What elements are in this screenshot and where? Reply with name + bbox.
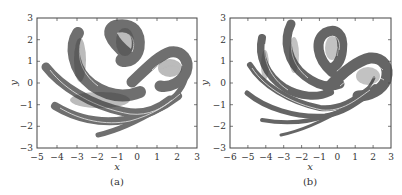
y-tick-label: −2 (213, 121, 226, 131)
y-tick-label: 1 (27, 56, 33, 66)
x-axis-label-a: x (114, 161, 120, 172)
figure-canvas: −5 −4 −3 −2 −1 0 1 2 3 3 2 1 0 −1 −2 −3 … (0, 0, 402, 195)
x-tick-label: −2 (90, 152, 103, 162)
x-tick-label: −3 (70, 152, 84, 162)
x-tick-label: −5 (241, 152, 255, 162)
y-tick-label: −2 (20, 121, 33, 131)
attractor-scatter-a (46, 26, 187, 135)
x-tick-label: 1 (154, 152, 160, 162)
x-tick-label: −3 (277, 152, 291, 162)
y-tick-labels-b: 3 2 1 0 −1 −2 −3 (213, 13, 227, 153)
y-tick-label: 2 (27, 35, 33, 45)
panel-caption-b: (b) (303, 176, 317, 187)
y-tick-label: 1 (220, 56, 226, 66)
x-tick-label: −4 (259, 152, 273, 162)
x-axis-label-b: x (307, 161, 313, 172)
panel-caption-a: (a) (110, 176, 124, 187)
x-tick-label: −4 (50, 152, 64, 162)
y-tick-label: 0 (27, 78, 33, 88)
x-tick-label: −1 (313, 152, 326, 162)
y-tick-label: 3 (220, 13, 226, 23)
y-axis-label-a: y (8, 80, 19, 87)
y-tick-label: −1 (20, 100, 33, 110)
y-tick-label: 2 (220, 35, 226, 45)
x-tick-label: 3 (388, 152, 394, 162)
y-tick-label: −3 (20, 143, 34, 153)
x-tick-label: 1 (352, 152, 358, 162)
y-tick-label: −3 (213, 143, 227, 153)
x-tick-label: −6 (223, 152, 237, 162)
panel-a: −5 −4 −3 −2 −1 0 1 2 3 3 2 1 0 −1 −2 −3 … (8, 13, 200, 187)
y-tick-labels-a: 3 2 1 0 −1 −2 −3 (20, 13, 34, 153)
panel-b: −6 −5 −4 −3 −2 −1 0 1 2 3 3 2 1 0 −1 −2 … (199, 13, 394, 187)
attractor-scatter-b (247, 24, 387, 135)
x-tick-label: −5 (30, 152, 44, 162)
x-tick-label: 3 (194, 152, 200, 162)
x-tick-label: 0 (334, 152, 340, 162)
x-tick-label: 2 (370, 152, 376, 162)
y-tick-label: 3 (27, 13, 33, 23)
y-tick-label: −1 (213, 100, 226, 110)
x-tick-label: 0 (134, 152, 140, 162)
y-axis-label-b: y (199, 80, 210, 87)
y-tick-label: 0 (220, 78, 226, 88)
x-tick-label: 2 (174, 152, 180, 162)
